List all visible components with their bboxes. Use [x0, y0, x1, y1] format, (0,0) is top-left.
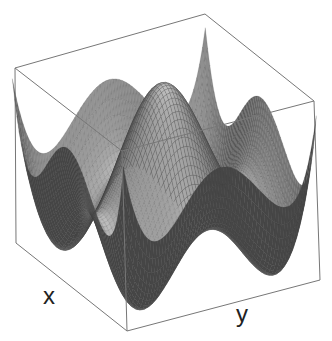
x-axis-label: x	[43, 284, 55, 308]
y-axis-label: y	[236, 302, 248, 326]
surface-mesh	[12, 28, 316, 310]
